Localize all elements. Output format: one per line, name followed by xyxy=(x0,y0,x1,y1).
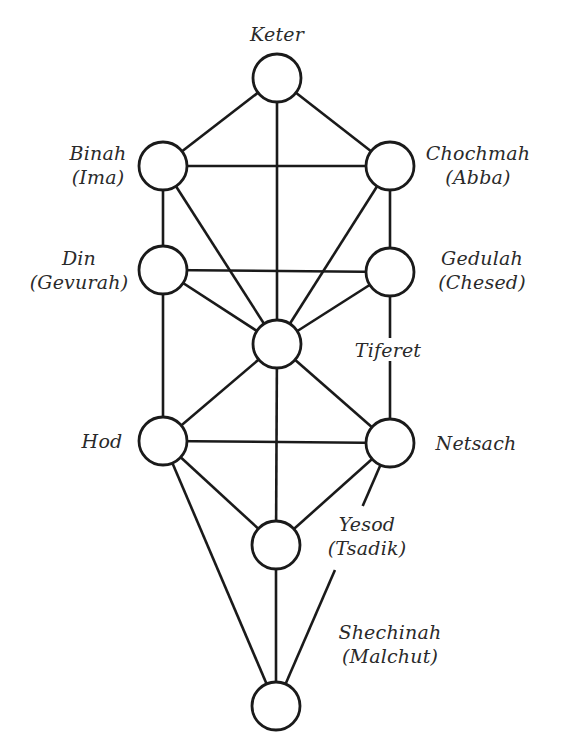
edge-hod-shechinah xyxy=(163,441,276,706)
label-din-alt: (Gevurah) xyxy=(30,270,129,294)
node-din-circle xyxy=(139,246,187,294)
label-hod: Hod xyxy=(82,429,123,453)
label-din: Din (Gevurah) xyxy=(30,246,129,294)
label-keter-name: Keter xyxy=(250,22,304,46)
label-gedulah-name: Gedulah xyxy=(438,246,526,270)
label-netsach: Netsach xyxy=(436,431,517,455)
edges-layer xyxy=(163,78,390,706)
node-netsach-circle xyxy=(366,419,414,467)
label-din-name: Din xyxy=(30,246,129,270)
label-yesod-name: Yesod xyxy=(328,512,407,536)
label-yesod-alt: (Tsadik) xyxy=(328,536,407,560)
label-yesod: Yesod (Tsadik) xyxy=(328,512,407,560)
label-binah: Binah (Ima) xyxy=(70,141,127,189)
label-netsach-name: Netsach xyxy=(436,431,517,455)
label-tiferet: Tiferet xyxy=(355,338,421,362)
label-keter: Keter xyxy=(250,22,304,46)
label-chochmah: Chochmah (Abba) xyxy=(426,141,530,189)
label-binah-alt: (Ima) xyxy=(70,165,127,189)
label-chochmah-alt: (Abba) xyxy=(426,165,530,189)
node-yesod-circle xyxy=(252,521,300,569)
label-binah-name: Binah xyxy=(70,141,127,165)
node-gedulah-circle xyxy=(366,248,414,296)
node-hod-circle xyxy=(139,417,187,465)
label-shechinah-alt: (Malchut) xyxy=(338,644,441,668)
edge-din-gedulah xyxy=(163,270,390,272)
node-chochmah-circle xyxy=(366,142,414,190)
label-chochmah-name: Chochmah xyxy=(426,141,530,165)
tree-of-life-diagram xyxy=(0,0,564,756)
node-shechinah-circle xyxy=(252,682,300,730)
node-binah-circle xyxy=(139,142,187,190)
label-gedulah: Gedulah (Chesed) xyxy=(438,246,526,294)
edge-tiferet-yesod xyxy=(276,344,277,545)
node-keter-circle xyxy=(253,54,301,102)
edge-hod-netsach xyxy=(163,441,390,443)
label-hod-name: Hod xyxy=(82,429,123,453)
label-shechinah: Shechinah (Malchut) xyxy=(338,620,441,668)
node-tiferet-circle xyxy=(253,320,301,368)
label-shechinah-name: Shechinah xyxy=(338,620,441,644)
label-tiferet-name: Tiferet xyxy=(355,338,421,362)
label-gedulah-alt: (Chesed) xyxy=(438,270,526,294)
